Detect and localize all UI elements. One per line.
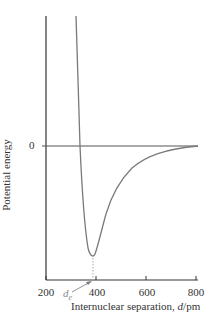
y-axis-label: Potential energy <box>0 139 12 211</box>
potential-energy-curve <box>76 16 198 256</box>
x-tick-400: 400 <box>89 286 106 298</box>
x-tick-600: 600 <box>139 286 156 298</box>
y-tick-zero: 0 <box>29 139 35 151</box>
de-arrowhead-icon <box>86 281 92 285</box>
x-tick-800: 800 <box>188 286 205 298</box>
chart-plot-area <box>0 0 215 335</box>
x-tick-200: 200 <box>38 286 55 298</box>
x-axis-label: Internuclear separation, d/pm <box>71 300 200 312</box>
